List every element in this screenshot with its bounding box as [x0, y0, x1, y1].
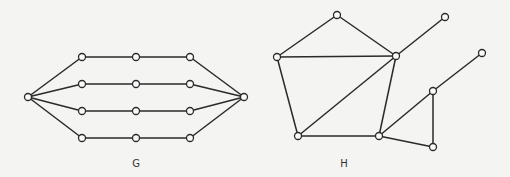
edge-h-bc-tb	[379, 136, 433, 147]
edge-h-left-hub	[277, 56, 396, 57]
vertex-g-a3	[187, 54, 194, 61]
graph-h-edges	[277, 15, 482, 147]
vertex-g-b2	[133, 81, 140, 88]
graph-h-label: H	[340, 158, 348, 169]
edge-h-top-hub	[337, 15, 396, 56]
edge-h-hub-pend1	[396, 17, 445, 56]
vertex-g-b1	[79, 81, 86, 88]
graph-g-label: G	[132, 158, 140, 169]
edge-g-d3-R	[190, 97, 244, 138]
vertex-g-b3	[187, 81, 194, 88]
vertex-g-c2	[133, 108, 140, 115]
edge-h-top-left	[277, 15, 337, 57]
vertex-h-hub	[393, 53, 400, 60]
vertex-h-tb	[430, 144, 437, 151]
graph-g-edges	[28, 57, 244, 138]
graph-g: G	[25, 54, 248, 170]
vertex-g-d3	[187, 135, 194, 142]
graph-g-nodes	[25, 54, 248, 142]
edge-g-L-d1	[28, 97, 82, 138]
vertex-g-a2	[133, 54, 140, 61]
vertex-h-bc	[376, 133, 383, 140]
vertex-h-top	[334, 12, 341, 19]
vertex-g-c3	[187, 108, 194, 115]
vertex-h-pend2	[479, 50, 486, 57]
vertex-h-tt	[430, 88, 437, 95]
vertex-g-R	[241, 94, 248, 101]
vertex-g-L	[25, 94, 32, 101]
vertex-h-bl	[295, 133, 302, 140]
vertex-g-d1	[79, 135, 86, 142]
vertex-h-pend1	[442, 14, 449, 21]
edge-h-tt-pend2	[433, 53, 482, 91]
vertex-g-d2	[133, 135, 140, 142]
edge-h-left-bl	[277, 57, 298, 136]
vertex-g-c1	[79, 108, 86, 115]
vertex-h-left	[274, 54, 281, 61]
vertex-g-a1	[79, 54, 86, 61]
graph-h: H	[274, 12, 486, 170]
diagram-canvas: G H	[0, 0, 510, 177]
